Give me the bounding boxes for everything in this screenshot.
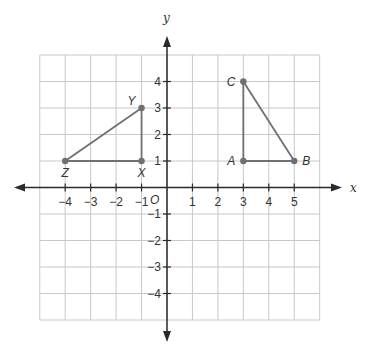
vertex-label-b: B (302, 154, 310, 168)
vertex-point-c (240, 78, 246, 84)
x-tick-label: 5 (291, 195, 298, 209)
x-axis-label: x (350, 181, 357, 195)
x-tick-label: 1 (189, 195, 196, 209)
vertex-label-x: X (137, 166, 147, 180)
y-tick-label: −2 (147, 234, 161, 248)
x-tick-label: 4 (265, 195, 272, 209)
y-tick-label: 4 (154, 75, 161, 89)
triangle-xyz: XYZ (61, 94, 147, 180)
y-tick-label: −4 (147, 287, 161, 301)
vertex-label-c: C (227, 75, 236, 89)
x-tick-label: −3 (84, 195, 98, 209)
x-axis-left-arrow-icon (14, 184, 25, 192)
vertex-point-a (240, 158, 246, 164)
vertex-point-b (291, 158, 297, 164)
coordinate-plane: −4−3−2−112345 4321−1−2−3−4 x y O XYZABC (0, 0, 367, 356)
vertex-label-z: Z (61, 166, 70, 180)
y-tick-label: 1 (154, 154, 161, 168)
x-tick-label: −4 (58, 195, 72, 209)
vertex-label-y: Y (128, 94, 137, 108)
x-axis-right-arrow-icon (331, 184, 342, 192)
y-tick-label: 3 (154, 101, 161, 115)
origin-label: O (150, 193, 159, 207)
vertex-point-x (138, 158, 144, 164)
triangles: XYZABC (61, 75, 311, 181)
x-tick-label: 2 (215, 195, 222, 209)
x-tick-label: −2 (109, 195, 123, 209)
y-axis-label: y (162, 11, 170, 25)
y-tick-label: −1 (147, 207, 161, 221)
y-tick-label: −3 (147, 260, 161, 274)
vertex-point-z (62, 158, 68, 164)
vertex-point-y (138, 105, 144, 111)
x-tick-label: 3 (240, 195, 247, 209)
vertex-label-a: A (226, 154, 235, 168)
y-axis-up-arrow-icon (163, 36, 171, 47)
y-tick-label: 2 (154, 128, 161, 142)
y-axis-down-arrow-icon (163, 331, 171, 342)
